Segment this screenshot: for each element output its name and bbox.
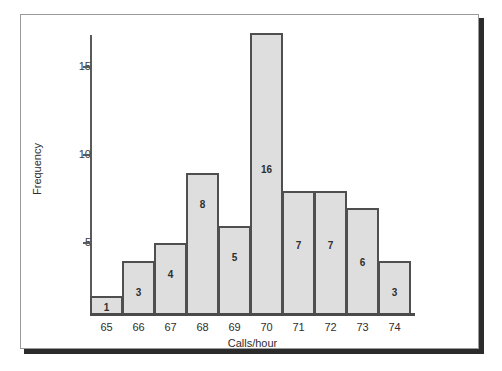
bar-73[interactable]: 6	[346, 208, 379, 316]
bar-value-69: 5	[220, 253, 249, 263]
bar-68[interactable]: 8	[186, 173, 219, 316]
x-axis-title: Calls/hour	[90, 337, 415, 349]
x-tick-label-66: 66	[122, 321, 155, 333]
bar-value-73: 6	[348, 258, 377, 268]
x-tick-label-65: 65	[90, 321, 123, 333]
bar-67[interactable]: 4	[154, 243, 187, 316]
x-tick-label-73: 73	[346, 321, 379, 333]
y-axis-title: Frequency	[31, 129, 43, 209]
bar-value-68: 8	[188, 200, 217, 210]
x-tick-label-69: 69	[218, 321, 251, 333]
x-tick-label-72: 72	[314, 321, 347, 333]
bar-value-65: 1	[92, 303, 121, 313]
x-tick-label-67: 67	[154, 321, 187, 333]
bar-value-71: 7	[284, 241, 313, 251]
plot-area: 15 10 5 1 3 4 8 5	[21, 15, 480, 350]
x-tick-label-74: 74	[378, 321, 411, 333]
bar-value-70: 16	[252, 165, 281, 175]
bars-layer: 1 3 4 8 5 16 7 7	[21, 15, 480, 350]
bar-71[interactable]: 7	[282, 191, 315, 316]
x-tick-label-71: 71	[282, 321, 315, 333]
bar-value-67: 4	[156, 270, 185, 280]
bar-66[interactable]: 3	[122, 261, 155, 316]
bar-69[interactable]: 5	[218, 226, 251, 316]
bar-value-74: 3	[380, 288, 409, 298]
bar-74[interactable]: 3	[378, 261, 411, 316]
bar-value-66: 3	[124, 288, 153, 298]
bar-70[interactable]: 16	[250, 33, 283, 316]
bar-72[interactable]: 7	[314, 191, 347, 316]
figure-frame: 15 10 5 1 3 4 8 5	[20, 14, 479, 349]
x-axis-line	[90, 313, 415, 316]
x-tick-label-68: 68	[186, 321, 219, 333]
x-tick-label-70: 70	[250, 321, 283, 333]
bar-value-72: 7	[316, 241, 345, 251]
